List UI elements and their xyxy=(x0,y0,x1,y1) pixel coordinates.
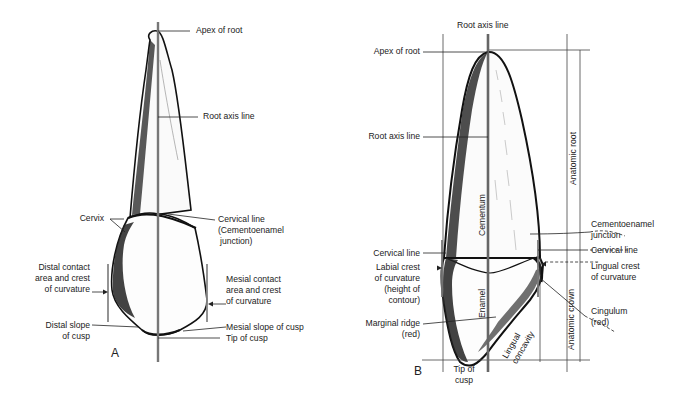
label-apex-of-root-a: Apex of root xyxy=(196,25,242,36)
label-anatomic-root: Anatomic root xyxy=(568,132,578,185)
label-tip-of-cusp-a: Tip of cusp xyxy=(226,333,268,344)
label-cingulum: Cingulum (red) xyxy=(591,306,627,328)
label-lingual-crest: Lingual crest of curvature xyxy=(591,261,640,283)
label-apex-of-root-b: Apex of root xyxy=(340,46,420,57)
label-root-axis-line-b: Root axis line xyxy=(340,131,420,142)
label-cervix: Cervix xyxy=(60,213,104,224)
label-cervical-line-a: Cervical line (Cementoenamel junction) xyxy=(218,214,284,247)
panel-a-tooth xyxy=(112,31,207,335)
label-distal-slope: Distal slope of cusp xyxy=(10,320,90,342)
label-distal-contact-area: Distal contact area and crest of curvatu… xyxy=(10,262,90,295)
label-labial-crest: Labial crest of curvature (height of con… xyxy=(340,262,420,306)
label-tip-of-cusp-b: Tip of cusp xyxy=(444,364,484,386)
panel-letter-b: B xyxy=(414,364,422,378)
panel-b-tooth xyxy=(441,52,543,366)
label-cervical-line-b-left: Cervical line xyxy=(340,248,420,259)
label-cementum: Cementum xyxy=(477,194,487,236)
panel-letter-a: A xyxy=(111,346,119,360)
label-enamel: Enamel xyxy=(477,289,487,318)
label-root-axis-line-a: Root axis line xyxy=(203,111,255,122)
label-mesial-slope: Mesial slope of cusp xyxy=(226,322,304,333)
label-root-axis-line-top: Root axis line xyxy=(457,20,509,31)
label-marginal-ridge: Marginal ridge (red) xyxy=(340,318,420,340)
label-cementoenamel-junction: Cementoenamel junction xyxy=(591,219,654,241)
label-anatomic-crown: Anatomic crown xyxy=(566,289,576,350)
label-mesial-contact-area: Mesial contact area and crest of curvatu… xyxy=(226,274,281,307)
label-cervical-line-b-right: Cervical line xyxy=(591,245,638,256)
